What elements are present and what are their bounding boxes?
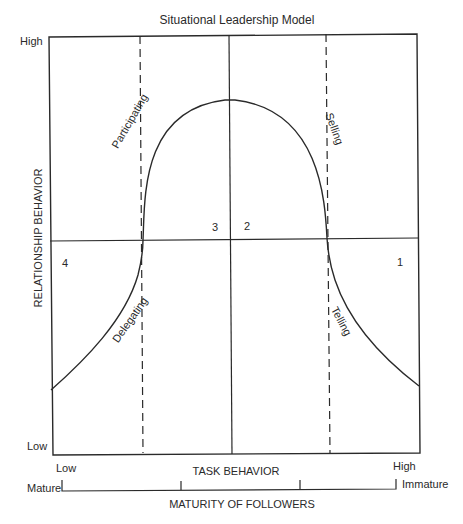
- y-axis-low-label: Low: [27, 440, 47, 452]
- y-axis-high-label: High: [20, 35, 43, 47]
- x-axis-high-label: High: [393, 460, 416, 472]
- maturity-scale-title: MATURITY OF FOLLOWERS: [169, 498, 315, 510]
- quadrant-number-3: 3: [212, 221, 218, 233]
- style-label-telling: Telling: [329, 305, 354, 338]
- center-vertical-divider: [229, 35, 232, 454]
- y-axis-title: RELATIONSHIP BEHAVIOR: [32, 169, 44, 308]
- maturity-right-label: Immature: [402, 478, 448, 490]
- quadrant-number-2: 2: [244, 220, 250, 232]
- maturity-left-label: Mature: [27, 482, 61, 494]
- leadership-style-curve: [51, 100, 419, 390]
- x-axis-title: TASK BEHAVIOR: [192, 465, 279, 477]
- x-axis-low-label: Low: [56, 462, 76, 474]
- plot-frame: [49, 34, 420, 455]
- maturity-scale-bracket: [62, 479, 396, 491]
- quadrant-number-4: 4: [62, 257, 68, 269]
- diagram-title: Situational Leadership Model: [160, 13, 315, 27]
- situational-leadership-diagram: Situational Leadership Model High Low RE…: [0, 0, 463, 524]
- quadrant-number-1: 1: [397, 256, 403, 268]
- style-label-participating: Participating: [109, 92, 150, 150]
- horizontal-midline: [50, 238, 418, 241]
